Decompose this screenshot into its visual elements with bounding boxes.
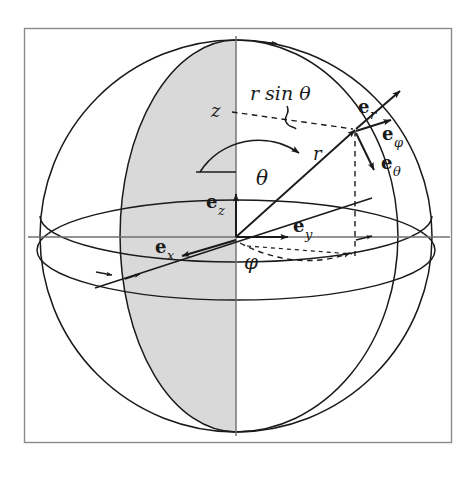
label-e-r-base: e [358, 96, 369, 117]
label-e-x-base: e [155, 236, 166, 257]
label-e-x-subscript: x [167, 248, 175, 263]
label-theta: θ [256, 166, 268, 190]
label-e-z-base: e [206, 191, 217, 212]
label-e-theta-subscript: θ [393, 164, 401, 179]
label-e-y-base: e [293, 215, 304, 236]
label-z: z [210, 100, 221, 121]
label-e-y-subscript: y [304, 227, 313, 242]
spherical-coordinates-diagram: r sin θ z r θ φ e r e φ e θ [0, 0, 474, 477]
label-e-theta-base: e [381, 152, 392, 173]
figure-root: r sin θ z r θ φ e r e φ e θ [0, 0, 474, 477]
label-e-r-subscript: r [370, 107, 377, 122]
label-r: r [313, 143, 323, 164]
label-e-phi-subscript: φ [394, 135, 404, 150]
label-e-phi-base: e [382, 123, 393, 144]
label-phi: φ [244, 250, 258, 274]
label-e-z-subscript: z [217, 203, 225, 218]
page-background [0, 0, 474, 477]
label-r-sin-theta: r sin θ [250, 82, 311, 104]
